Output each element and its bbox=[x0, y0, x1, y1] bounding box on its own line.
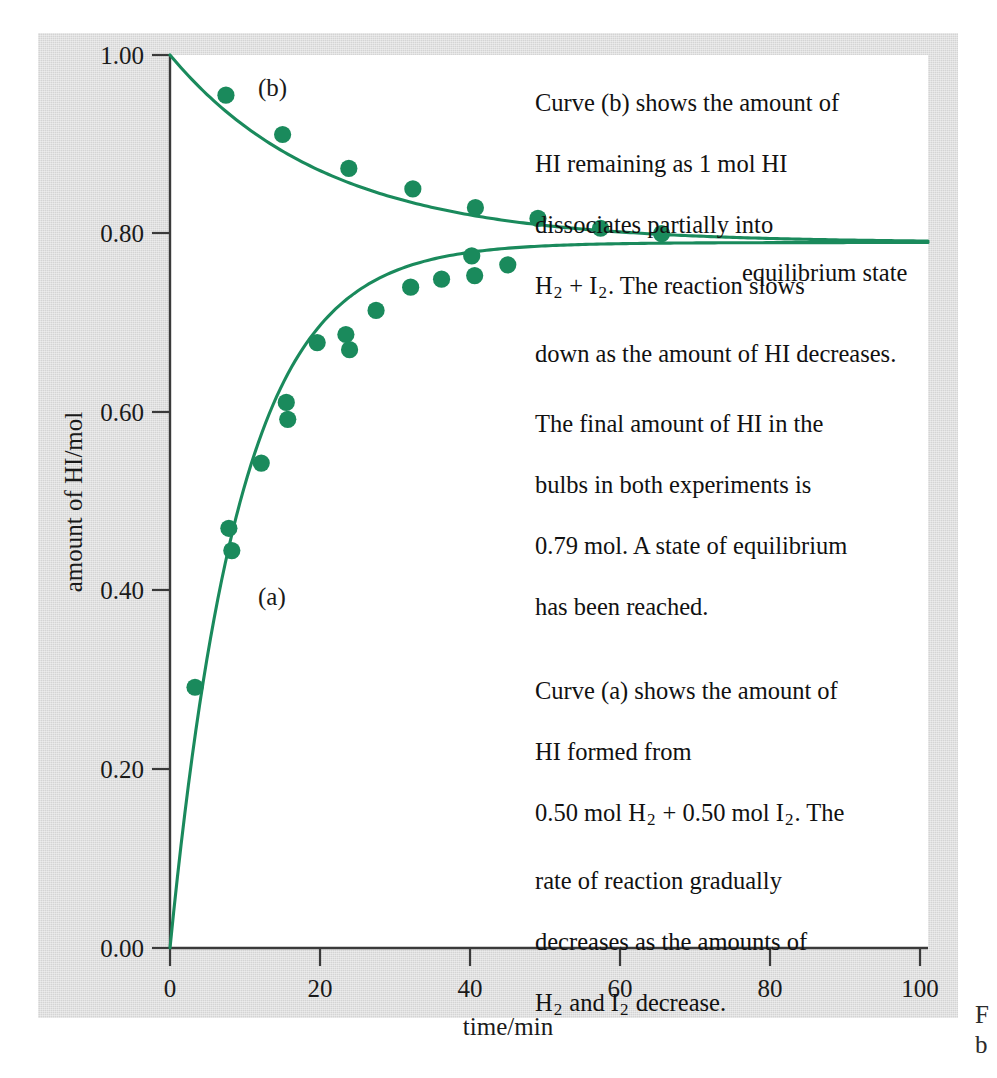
data-point bbox=[466, 267, 483, 284]
data-point bbox=[309, 334, 326, 351]
formula-a2-and-i: and I bbox=[563, 989, 619, 1016]
data-point bbox=[463, 247, 480, 264]
annotation-curve-a-line2: HI formed from bbox=[535, 737, 844, 768]
data-point bbox=[367, 302, 384, 319]
annotation-curve-a-line3: 0.50 mol H2 + 0.50 mol I2. The bbox=[535, 798, 844, 836]
y-tick-label-2: 0.40 bbox=[100, 577, 144, 604]
formula-a2-h: H bbox=[535, 989, 553, 1016]
data-point bbox=[499, 256, 516, 273]
formula-a-h: 0.50 mol H bbox=[535, 799, 646, 826]
data-point bbox=[186, 679, 203, 696]
annotation-curve-b-line3: dissociates partially into bbox=[535, 210, 896, 241]
figure-root: 0.00 0.20 0.40 0.60 0.80 1.00 0 20 40 60… bbox=[0, 0, 997, 1078]
y-tick-label-4: 0.80 bbox=[100, 220, 144, 247]
x-tick-label-2: 40 bbox=[458, 975, 483, 1002]
caption-fragment-line2: b bbox=[975, 1030, 997, 1060]
annotation-curve-a-line5: decreases as the amounts of bbox=[535, 927, 844, 958]
data-point bbox=[404, 180, 421, 197]
curve-a-data-points bbox=[186, 247, 516, 696]
formula-a2-h-subscript: 2 bbox=[553, 1000, 564, 1019]
data-point bbox=[340, 160, 357, 177]
formula-a-h-subscript: 2 bbox=[646, 810, 657, 829]
y-tick-label-1: 0.20 bbox=[100, 756, 144, 783]
data-point bbox=[279, 411, 296, 428]
annotation-curve-b-line2: HI remaining as 1 mol HI bbox=[535, 149, 896, 180]
y-tick-label-5: 1.00 bbox=[100, 42, 144, 69]
curve-label-a: (a) bbox=[258, 583, 286, 611]
data-point bbox=[337, 326, 354, 343]
annotation-mid-line1: The final amount of HI in the bbox=[535, 409, 847, 440]
annotation-curve-a-line6-tail: decrease. bbox=[630, 989, 727, 1016]
annotation-mid-line2: bulbs in both experiments is bbox=[535, 470, 847, 501]
formula-a-plus-i: + 0.50 mol I bbox=[656, 799, 783, 826]
formula-i-subscript: 2 bbox=[597, 283, 608, 302]
data-point bbox=[253, 455, 270, 472]
data-point bbox=[341, 341, 358, 358]
annotation-curve-a-line1: Curve (a) shows the amount of bbox=[535, 676, 844, 707]
data-point bbox=[278, 394, 295, 411]
data-point bbox=[223, 542, 240, 559]
formula-h-subscript: 2 bbox=[553, 283, 564, 302]
formula-h: H bbox=[535, 272, 553, 299]
y-tick-label-0: 0.00 bbox=[100, 935, 144, 962]
data-point bbox=[467, 199, 484, 216]
formula-a2-i-subscript: 2 bbox=[619, 1000, 630, 1019]
annotation-curve-a: Curve (a) shows the amount of HI formed … bbox=[535, 645, 844, 1056]
data-point bbox=[220, 520, 237, 537]
annotation-curve-b-line1: Curve (b) shows the amount of bbox=[535, 88, 896, 119]
x-tick-label-5: 100 bbox=[901, 975, 939, 1002]
formula-plus-i: + I bbox=[563, 272, 597, 299]
annotation-equilibrium-note: The final amount of HI in the bulbs in b… bbox=[535, 378, 847, 653]
data-point bbox=[274, 126, 291, 143]
x-tick-label-0: 0 bbox=[164, 975, 177, 1002]
data-point bbox=[217, 87, 234, 104]
annotation-curve-a-line6: H2 and I2 decrease. bbox=[535, 988, 844, 1026]
annotation-curve-a-line3-tail: . The bbox=[794, 799, 844, 826]
annotation-curve-b-line5: down as the amount of HI decreases. bbox=[535, 339, 896, 370]
y-axis-title: amount of HI/mol bbox=[60, 412, 87, 593]
data-point bbox=[402, 279, 419, 296]
annotation-curve-a-line4: rate of reaction gradually bbox=[535, 866, 844, 897]
curve-label-b: (b) bbox=[258, 74, 287, 102]
formula-a-i-subscript: 2 bbox=[784, 810, 795, 829]
data-point bbox=[433, 271, 450, 288]
caption-fragment-line1: F bbox=[975, 1000, 997, 1030]
annotation-curve-b: Curve (b) shows the amount of HI remaini… bbox=[535, 57, 896, 400]
x-tick-label-1: 20 bbox=[308, 975, 333, 1002]
annotation-curve-b-line4: H2 + I2. The reaction slows bbox=[535, 271, 896, 309]
y-tick-label-3: 0.60 bbox=[100, 399, 144, 426]
annotation-mid-line3: 0.79 mol. A state of equilibrium bbox=[535, 531, 847, 562]
annotation-curve-b-line4-tail: . The reaction slows bbox=[608, 272, 805, 299]
y-tick-marks bbox=[152, 55, 170, 948]
annotation-mid-line4: has been reached. bbox=[535, 592, 847, 623]
